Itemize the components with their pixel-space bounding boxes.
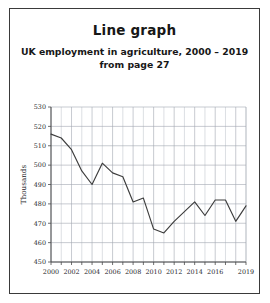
y-axis-title: Thousands [19,165,28,205]
svg-text:2016: 2016 [207,268,223,276]
svg-text:2006: 2006 [104,268,120,276]
svg-text:Thousands: Thousands [19,165,28,205]
svg-text:2014: 2014 [187,268,203,276]
svg-text:2004: 2004 [84,268,100,276]
svg-text:2002: 2002 [63,268,79,276]
data-series-line [51,134,246,233]
svg-text:2019: 2019 [238,268,254,276]
svg-text:2008: 2008 [125,268,141,276]
svg-text:500: 500 [34,161,46,169]
svg-text:510: 510 [34,142,46,150]
svg-text:480: 480 [34,200,46,208]
svg-text:520: 520 [34,123,46,131]
svg-text:2012: 2012 [166,268,182,276]
svg-text:2010: 2010 [145,268,161,276]
svg-text:490: 490 [34,181,46,189]
axis-tick-marks [48,107,246,265]
y-axis-tick-labels: 450460470480490500510520530 [34,103,46,266]
svg-text:530: 530 [34,103,46,111]
chart-subtitle: UK employment in agriculture, 2000 – 201… [10,46,259,71]
chart-subtitle-line-2: from page 27 [16,59,253,72]
svg-text:460: 460 [34,239,46,247]
x-axis-tick-labels: 2000200220042006200820102012201420162019 [43,268,254,276]
chart-subtitle-line-1: UK employment in agriculture, 2000 – 201… [16,46,253,59]
grid-minor-lines [61,107,246,262]
page-title: Line graph [10,22,259,38]
svg-text:2000: 2000 [43,268,59,276]
svg-text:470: 470 [34,220,46,228]
grid-major-lines [51,107,246,262]
chart-card: Line graph UK employment in agriculture,… [9,8,260,294]
axis-lines [51,107,246,262]
svg-text:450: 450 [34,258,46,266]
